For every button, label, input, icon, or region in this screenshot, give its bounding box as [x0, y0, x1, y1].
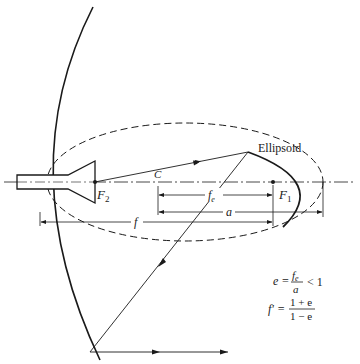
equation-eccentricity: e = fe a < 1: [273, 269, 323, 295]
svg-text:fe: fe: [292, 269, 299, 283]
ellipsoidal-subreflector-diagram: Ellipsoid F2 F1 C fe a f e = fe a < 1 f'…: [0, 0, 360, 364]
ray-arrowhead-2: [158, 258, 166, 267]
svg-text:< 1: < 1: [307, 275, 323, 289]
subreflector-surface: [248, 152, 300, 227]
svg-text:a: a: [293, 283, 299, 295]
ray-arrowhead: [193, 161, 201, 166]
svg-text:f' =: f' =: [268, 302, 285, 316]
label-f2: F2: [96, 187, 109, 204]
label-ellipsoid: Ellipsoid: [258, 141, 301, 155]
svg-text:1 + e: 1 + e: [290, 296, 312, 308]
focal-point-f1: [271, 180, 275, 184]
label-center-c: C: [154, 168, 162, 180]
svg-text:e =: e =: [273, 274, 289, 288]
svg-text:1 − e: 1 − e: [290, 310, 312, 322]
ray-arrowhead-4: [220, 350, 228, 355]
label-a: a: [226, 205, 232, 219]
ray-f2-to-ellipsoid: [95, 152, 248, 182]
label-f1: F1: [278, 187, 291, 204]
ray-arrowhead-3: [152, 350, 160, 355]
equation-magnification: f' = 1 + e 1 − e: [268, 296, 315, 322]
